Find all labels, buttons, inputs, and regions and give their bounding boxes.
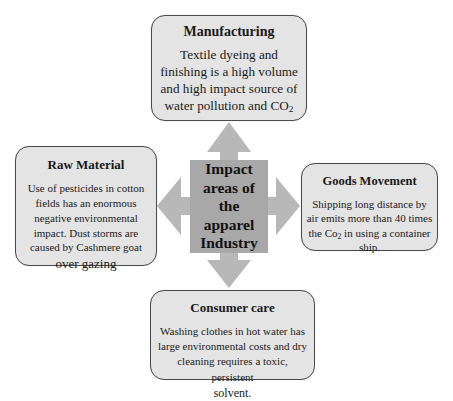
consumer-care-body: Washing clothes in hot water has large e… bbox=[157, 324, 308, 401]
arrow-down-icon bbox=[207, 250, 251, 288]
consumer-care-text: Washing clothes in hot water has large e… bbox=[158, 325, 307, 383]
manufacturing-body: Textile dyeing and finishing is a high v… bbox=[158, 47, 300, 115]
subscript: 2 bbox=[289, 104, 294, 114]
manufacturing-box: Manufacturing Textile dyeing and finishi… bbox=[151, 15, 307, 121]
manufacturing-text: Textile dyeing and finishing is a high v… bbox=[160, 47, 298, 113]
goods-movement-body: Shipping long distance by air emits more… bbox=[306, 197, 433, 254]
arrow-right-icon bbox=[266, 177, 300, 235]
center-label: Impact areas of the apparel Industry bbox=[190, 160, 268, 253]
goods-movement-text-post: in using a container ship. bbox=[341, 227, 430, 253]
arrow-up-icon bbox=[207, 122, 251, 162]
raw-material-text: Use of pesticides in cotton fields has a… bbox=[28, 182, 145, 253]
manufacturing-title: Manufacturing bbox=[158, 24, 300, 40]
arrow-left-icon bbox=[157, 177, 192, 235]
center-line: the bbox=[219, 197, 240, 216]
center-line: areas of bbox=[203, 179, 255, 198]
raw-material-box: Raw Material Use of pesticides in cotton… bbox=[15, 146, 157, 266]
raw-material-body: Use of pesticides in cotton fields has a… bbox=[22, 181, 150, 273]
consumer-care-text-tail: solvent. bbox=[214, 386, 252, 400]
center-line: Industry bbox=[200, 234, 258, 253]
goods-movement-title: Goods Movement bbox=[306, 174, 433, 189]
center-line: apparel bbox=[204, 216, 255, 235]
consumer-care-box: Consumer care Washing clothes in hot wat… bbox=[150, 290, 315, 380]
center-line: Impact bbox=[205, 160, 252, 179]
raw-material-text-tail: over gazing bbox=[55, 256, 116, 271]
consumer-care-title: Consumer care bbox=[157, 300, 308, 316]
goods-movement-box: Goods Movement Shipping long distance by… bbox=[301, 163, 438, 251]
raw-material-title: Raw Material bbox=[22, 157, 150, 173]
